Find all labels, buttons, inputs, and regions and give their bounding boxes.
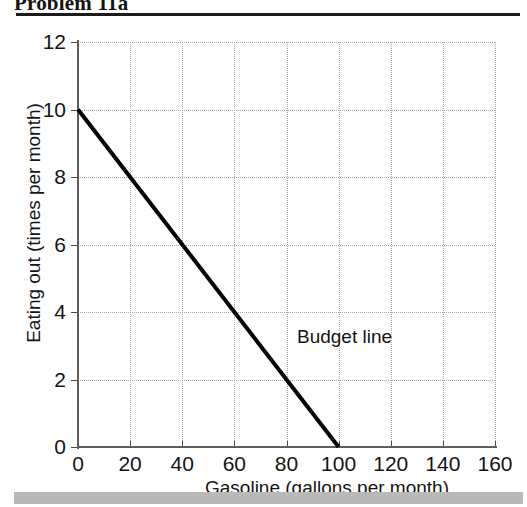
footer-bar: [14, 492, 523, 504]
budget-line-chart: 024681012 020406080100120140160 Budget l…: [0, 0, 527, 507]
y-axis-title: Eating out (times per month): [23, 53, 45, 393]
budget-line-series: [78, 110, 339, 448]
budget-line-annotation: Budget line: [297, 326, 392, 348]
series-layer: [0, 0, 527, 507]
chart-page: Problem 11a 024681012 020406080100120140…: [0, 0, 527, 507]
